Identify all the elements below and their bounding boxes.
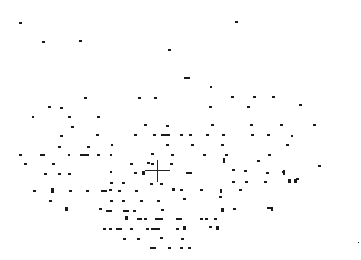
field-mark	[150, 247, 156, 249]
field-mark	[272, 96, 275, 98]
field-mark	[96, 134, 99, 136]
field-mark	[221, 208, 224, 212]
field-mark	[166, 144, 169, 146]
field-mark	[219, 196, 222, 198]
field-mark	[133, 210, 136, 212]
field-mark	[247, 106, 250, 108]
field-mark	[232, 169, 235, 171]
field-mark	[223, 158, 225, 163]
field-mark	[125, 216, 128, 220]
game-field[interactable]	[0, 0, 361, 260]
field-mark	[60, 107, 63, 109]
field-mark	[233, 208, 236, 210]
field-mark	[32, 116, 34, 118]
field-mark	[99, 208, 102, 210]
field-mark	[183, 198, 186, 200]
field-mark	[40, 154, 45, 156]
field-mark	[151, 228, 160, 230]
field-mark	[222, 134, 225, 136]
field-mark	[180, 189, 183, 191]
field-mark	[161, 209, 164, 211]
field-mark	[58, 173, 61, 175]
field-mark	[24, 163, 27, 165]
field-mark	[160, 183, 163, 185]
field-mark	[189, 134, 192, 136]
field-mark	[153, 134, 156, 136]
field-mark	[214, 218, 217, 220]
field-mark	[144, 124, 147, 126]
field-mark	[170, 163, 173, 165]
field-mark	[180, 134, 183, 136]
field-mark	[168, 247, 171, 249]
field-mark	[221, 144, 224, 146]
field-mark	[216, 226, 219, 230]
field-mark	[191, 144, 194, 146]
field-mark	[134, 172, 137, 174]
field-mark	[52, 163, 55, 165]
field-mark	[176, 228, 179, 230]
field-mark	[157, 200, 160, 202]
field-mark	[79, 40, 82, 42]
field-mark	[130, 163, 133, 165]
field-mark	[183, 226, 186, 230]
field-mark	[134, 134, 137, 136]
field-mark	[151, 153, 154, 155]
field-mark	[200, 189, 203, 191]
field-mark	[44, 173, 47, 175]
field-mark	[68, 154, 70, 156]
field-mark	[181, 238, 184, 240]
field-mark	[86, 190, 89, 192]
field-mark	[235, 21, 238, 23]
field-mark	[203, 154, 206, 156]
field-mark	[58, 146, 61, 148]
field-mark	[116, 228, 122, 230]
field-mark	[80, 154, 89, 156]
field-mark	[286, 144, 289, 146]
field-mark	[184, 77, 190, 79]
field-mark	[271, 207, 273, 211]
field-mark	[144, 218, 147, 220]
field-mark	[180, 247, 183, 249]
field-mark	[71, 126, 74, 128]
field-mark	[154, 97, 157, 99]
field-mark	[137, 238, 140, 240]
field-mark	[299, 104, 302, 106]
field-mark	[264, 181, 267, 183]
field-mark	[106, 210, 112, 212]
field-mark	[210, 86, 212, 88]
field-mark	[101, 190, 107, 192]
field-mark	[179, 218, 182, 220]
field-mark	[103, 228, 106, 230]
field-mark	[137, 218, 142, 220]
field-mark	[122, 200, 125, 202]
field-mark	[150, 183, 153, 185]
field-mark	[97, 116, 100, 118]
field-mark	[280, 124, 283, 126]
field-mark	[140, 200, 143, 202]
field-mark	[123, 210, 129, 212]
field-mark	[118, 190, 121, 192]
field-mark	[251, 134, 254, 136]
field-mark	[231, 96, 234, 98]
field-mark	[172, 188, 175, 191]
field-mark	[110, 200, 113, 202]
field-mark	[109, 228, 112, 230]
field-mark	[151, 163, 154, 165]
field-mark	[110, 171, 112, 173]
field-mark	[84, 97, 87, 99]
field-mark	[318, 165, 321, 167]
field-mark	[253, 96, 256, 98]
field-mark	[110, 182, 113, 184]
field-mark	[294, 179, 297, 183]
field-mark	[211, 124, 214, 126]
field-mark	[288, 179, 291, 183]
field-mark	[225, 154, 228, 156]
field-mark	[168, 49, 171, 51]
field-mark	[135, 190, 138, 192]
field-mark	[160, 237, 163, 239]
field-mark	[266, 172, 269, 174]
field-mark	[146, 228, 149, 230]
field-mark	[51, 188, 54, 193]
field-mark	[268, 154, 271, 156]
crosshair-icon	[157, 160, 158, 182]
